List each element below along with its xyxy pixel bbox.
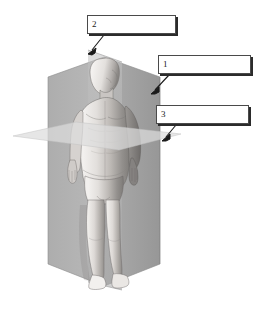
callout-number-2: 2 xyxy=(92,20,97,29)
callout-box-1[interactable]: 1 xyxy=(158,55,251,74)
callout-box-2[interactable]: 2 xyxy=(87,15,176,34)
anatomical-planes-figure: 2 1 3 xyxy=(0,0,254,309)
callout-box-3[interactable]: 3 xyxy=(156,105,249,124)
arrow-callout-2 xyxy=(88,35,104,55)
callout-number-3: 3 xyxy=(161,110,166,119)
callout-number-1: 1 xyxy=(163,60,168,69)
planes-scene xyxy=(0,0,254,309)
